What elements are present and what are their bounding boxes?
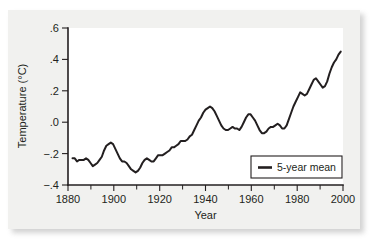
x-axis-tick-labels: 1880 1900 1920 1940 1960 1980 2000 [56, 193, 355, 205]
x-tick-label: 1880 [56, 193, 80, 205]
temperature-anomaly-line-chart: .6 .4 .2 .0 −.2 −.4 [8, 10, 360, 229]
y-tick-label: −.4 [43, 179, 59, 191]
x-tick-label: 1960 [239, 193, 263, 205]
y-axis-ticks [62, 28, 68, 185]
figure-root: .6 .4 .2 .0 −.2 −.4 [0, 0, 373, 246]
y-tick-label: −.2 [43, 148, 59, 160]
chart-plot-area: .6 .4 .2 .0 −.2 −.4 [8, 10, 360, 229]
legend-label: 5-year mean [277, 161, 336, 173]
chart-legend: 5-year mean [251, 156, 342, 178]
y-tick-label: .0 [50, 116, 59, 128]
y-tick-label: .4 [50, 53, 59, 65]
x-tick-label: 1920 [147, 193, 171, 205]
x-tick-label: 1900 [102, 193, 126, 205]
y-tick-label: .6 [50, 22, 59, 34]
y-axis-tick-labels: .6 .4 .2 .0 −.2 −.4 [43, 22, 59, 191]
figure-card: .6 .4 .2 .0 −.2 −.4 [8, 10, 360, 229]
x-tick-label: 1980 [285, 193, 309, 205]
y-axis-title: Temperature (°C) [16, 64, 28, 148]
x-tick-label: 2000 [331, 193, 355, 205]
x-axis-ticks [68, 185, 343, 191]
x-axis-title: Year [194, 209, 217, 221]
x-tick-label: 1940 [193, 193, 217, 205]
y-tick-label: .2 [50, 85, 59, 97]
